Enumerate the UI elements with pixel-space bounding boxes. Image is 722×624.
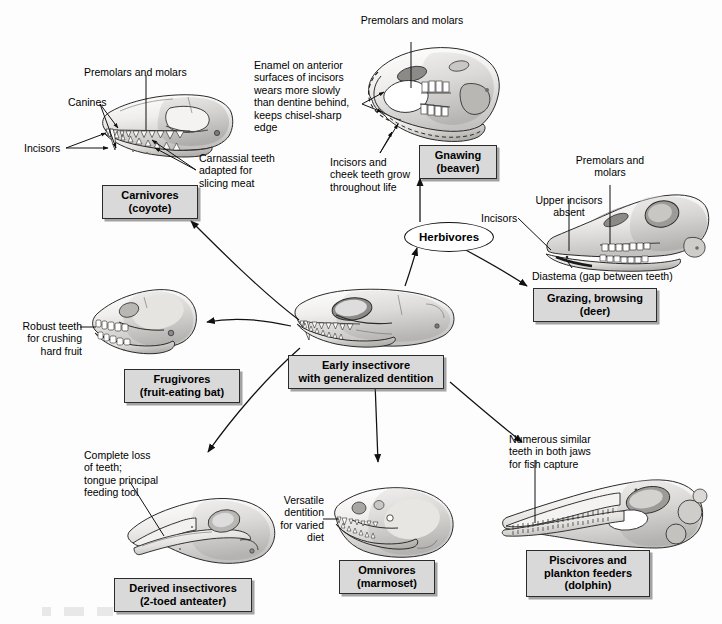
skull-early-insectivore: [295, 289, 454, 347]
skull-marmoset: [335, 488, 453, 558]
arrow-to-herbivores: [405, 248, 417, 286]
skull-beaver: [369, 48, 500, 142]
annotation-coyote-carnassial: Carnassial teeth adapted for slicing mea…: [199, 152, 275, 189]
annotation-anteater-teeth: Complete loss of teeth; tongue principal…: [84, 449, 176, 499]
annotation-coyote-premolars: Premolars and molars: [84, 66, 187, 78]
diagram-canvas: Premolars and molars Canines Incisors Ca…: [0, 0, 722, 624]
skull-coyote: [103, 95, 233, 157]
box-frugivores[interactable]: Frugivores (fruit-eating bat): [124, 369, 240, 403]
annotation-beaver-enamel: Enamel on anterior surfaces of incisors …: [254, 59, 362, 133]
arrow-to-omnivores: [375, 382, 378, 462]
annotation-marmoset-dentition: Versatile dentition for varied diet: [262, 494, 324, 544]
cropped-caption-artifact: [36, 607, 128, 616]
box-early-insectivore[interactable]: Early insectivore with generalized denti…: [288, 355, 444, 389]
box-gnawing[interactable]: Gnawing (beaver): [419, 145, 497, 179]
node-herbivores[interactable]: Herbivores: [404, 222, 494, 252]
arrow-to-carnivores: [191, 221, 299, 320]
annotation-bat-teeth: Robust teeth for crushing hard fruit: [10, 320, 82, 357]
annotation-dolphin-teeth: Numerous similar teeth in both jaws for …: [509, 433, 609, 470]
box-omnivores[interactable]: Omnivores (marmoset): [339, 560, 435, 594]
box-piscivores[interactable]: Piscivores and plankton feeders (dolphin…: [526, 550, 650, 597]
arrow-to-frugivores: [207, 319, 291, 326]
arrow-to-grazing: [462, 248, 527, 286]
box-grazing-browsing[interactable]: Grazing, browsing (deer): [533, 288, 657, 322]
skull-dolphin: [502, 480, 707, 548]
annotation-deer-upper-incisors: Upper incisors absent: [521, 194, 617, 219]
annotation-deer-diastema: Diastema (gap between teeth): [532, 270, 673, 282]
skull-anteater: [128, 498, 275, 563]
box-carnivores[interactable]: Carnivores (coyote): [102, 185, 198, 219]
annotation-beaver-premolars: Premolars and molars: [347, 14, 477, 26]
node-herbivores-label: Herbivores: [419, 231, 479, 243]
annotation-coyote-incisors: Incisors: [24, 142, 60, 154]
annotation-coyote-canines: Canines: [68, 96, 107, 108]
annotation-deer-premolars: Premolars and molars: [567, 154, 653, 179]
skull-bat: [93, 290, 197, 354]
annotation-beaver-growth: Incisors and cheek teeth grow throughout…: [330, 156, 422, 193]
box-derived-insectivores[interactable]: Derived insectivores (2-toed anteater): [114, 578, 252, 612]
annotation-deer-incisors: Incisors: [481, 212, 517, 224]
